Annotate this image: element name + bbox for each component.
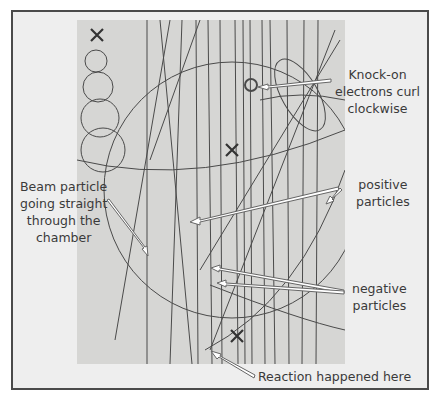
reaction-label: Reaction happened here <box>258 368 411 385</box>
beam-line-2: going straight <box>20 195 107 212</box>
positive-line-1: positive <box>356 176 410 193</box>
beam-line-1: Beam particle <box>20 178 107 195</box>
knock-on-line-1: Knock-on <box>335 66 420 83</box>
knock-on-label: Knock-on electrons curl clockwise <box>335 66 420 117</box>
knock-on-line-3: clockwise <box>335 100 420 117</box>
negative-line-2: particles <box>352 297 407 314</box>
beam-line-3: through the <box>20 212 107 229</box>
knock-on-line-2: electrons curl <box>335 83 420 100</box>
beam-line-4: chamber <box>20 229 107 246</box>
beam-label: Beam particle going straight through the… <box>20 178 107 246</box>
negative-line-1: negative <box>352 280 407 297</box>
negative-label: negative particles <box>352 280 407 314</box>
positive-line-2: particles <box>356 193 410 210</box>
positive-label: positive particles <box>356 176 410 210</box>
